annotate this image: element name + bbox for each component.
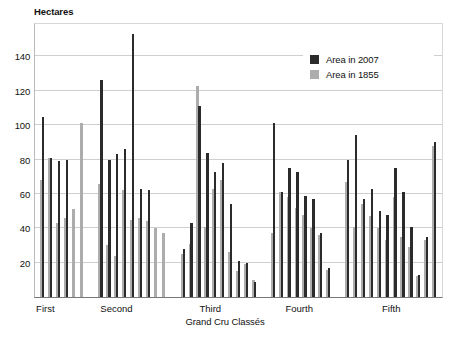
legend-swatch-2007 — [310, 55, 319, 64]
x-axis-group-label-fourth: Fourth — [285, 303, 312, 314]
bar-area-2007 — [132, 34, 134, 297]
gridline — [35, 90, 442, 91]
bar-area-1855 — [80, 123, 83, 297]
bar-area-2007 — [183, 249, 185, 297]
x-axis-group-label-second: Second — [100, 303, 132, 314]
bar-area-2007 — [386, 215, 388, 298]
bar-area-2007 — [116, 154, 118, 297]
bar-area-2007 — [58, 161, 60, 297]
bar-area-2007 — [288, 168, 290, 297]
bar-area-2007 — [100, 80, 102, 297]
bar-area-2007 — [273, 123, 275, 297]
legend-item-1855: Area in 1855 — [310, 67, 434, 82]
legend-item-2007: Area in 2007 — [310, 52, 434, 67]
bar-area-2007 — [394, 168, 396, 297]
gridline — [35, 159, 442, 160]
bar-area-2007 — [214, 172, 216, 297]
bar-area-2007 — [363, 199, 365, 297]
bar-area-2007 — [426, 237, 428, 297]
gridline — [35, 124, 442, 125]
bar-area-2007 — [254, 282, 256, 297]
y-axis-tick-label: 60 — [2, 189, 30, 200]
y-axis-tick-label: 80 — [2, 155, 30, 166]
bar-area-2007 — [230, 204, 232, 297]
bar-area-2007 — [355, 135, 357, 297]
y-axis-tick-label: 20 — [2, 258, 30, 269]
bar-area-2007 — [281, 192, 283, 297]
legend: Area in 2007 Area in 1855 — [303, 50, 434, 86]
bar-area-2007 — [206, 153, 208, 297]
bar-area-1855 — [154, 228, 157, 297]
bar-area-2007 — [190, 223, 192, 297]
legend-label-2007: Area in 2007 — [326, 54, 379, 65]
bar-area-2007 — [296, 172, 298, 297]
y-axis-tick-label: 120 — [2, 86, 30, 97]
legend-label-1855: Area in 1855 — [326, 69, 379, 80]
x-axis-group-label-fifth: Fifth — [382, 303, 400, 314]
gridline — [35, 193, 442, 194]
bar-area-2007 — [66, 160, 68, 298]
bar-area-1855 — [72, 209, 75, 297]
bar-area-2007 — [108, 160, 110, 298]
bar-area-2007 — [198, 106, 200, 297]
bar-area-2007 — [410, 227, 412, 297]
bar-area-1855 — [162, 233, 165, 297]
chart-root: Hectares 20406080100120140 FirstSecondTh… — [0, 0, 450, 343]
bar-area-2007 — [246, 263, 248, 297]
bar-area-2007 — [42, 117, 44, 297]
bar-area-2007 — [347, 160, 349, 298]
x-axis-group-label-third: Third — [199, 303, 221, 314]
y-axis-tick-label: 40 — [2, 223, 30, 234]
y-axis-title: Hectares — [34, 6, 73, 17]
y-axis-tick-label: 140 — [2, 51, 30, 62]
gridline — [35, 227, 442, 228]
bar-area-2007 — [402, 192, 404, 297]
bar-area-2007 — [328, 268, 330, 297]
x-axis-title: Grand Cru Classés — [0, 316, 450, 327]
bar-area-2007 — [379, 211, 381, 297]
bar-area-2007 — [238, 261, 240, 297]
bar-area-2007 — [124, 149, 126, 297]
bar-area-2007 — [434, 142, 436, 297]
bar-area-2007 — [320, 233, 322, 297]
bar-area-2007 — [304, 196, 306, 297]
bar-area-2007 — [312, 199, 314, 297]
bar-area-2007 — [418, 275, 420, 297]
legend-swatch-1855 — [310, 70, 319, 79]
bar-area-2007 — [371, 189, 373, 297]
bar-area-2007 — [140, 189, 142, 297]
bar-area-2007 — [222, 163, 224, 297]
bar-area-2007 — [50, 158, 52, 297]
bar-area-2007 — [148, 190, 150, 297]
y-axis-tick-label: 100 — [2, 120, 30, 131]
x-axis-group-label-first: First — [36, 303, 54, 314]
